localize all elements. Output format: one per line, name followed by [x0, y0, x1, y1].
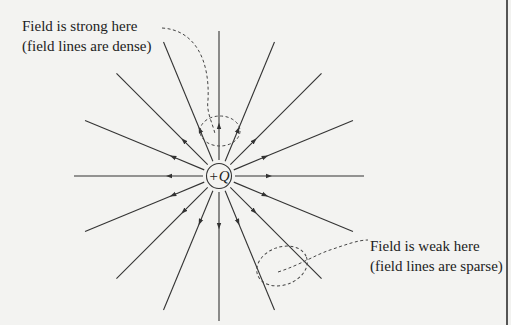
- field-line: [265, 195, 353, 231]
- field-line: [265, 121, 353, 157]
- field-line: [184, 141, 208, 165]
- field-line: [238, 42, 274, 130]
- field-line: [254, 73, 321, 140]
- field-line: [116, 211, 183, 278]
- field-line: [164, 42, 200, 130]
- field-line: [225, 191, 238, 222]
- weak-annotation-line2: (field lines are sparse): [370, 256, 503, 276]
- field-line: [184, 187, 208, 211]
- field-line: [173, 157, 204, 170]
- weak-field-annotation: Field is weak here (field lines are spar…: [370, 236, 503, 276]
- field-line: [200, 191, 213, 222]
- field-line: [238, 222, 274, 310]
- field-line: [230, 141, 254, 165]
- strong-leader-line: [162, 28, 215, 134]
- field-line: [116, 73, 183, 140]
- field-line: [164, 222, 200, 310]
- weak-region-marker: [251, 239, 313, 292]
- field-line: [200, 130, 213, 161]
- strong-region-marker: [200, 116, 240, 146]
- field-line: [230, 187, 254, 211]
- strong-annotation-line1: Field is strong here: [22, 16, 152, 36]
- strong-annotation-line2: (field lines are dense): [22, 36, 152, 56]
- weak-leader-line: [278, 240, 368, 272]
- field-line: [225, 130, 238, 161]
- field-line: [234, 157, 265, 170]
- field-line: [85, 121, 173, 157]
- field-line: [254, 211, 321, 278]
- weak-annotation-line1: Field is weak here: [370, 236, 503, 256]
- strong-field-annotation: Field is strong here (field lines are de…: [22, 16, 152, 56]
- charge-label: +Q: [209, 168, 230, 184]
- field-line: [234, 182, 265, 195]
- field-line: [173, 182, 204, 195]
- field-line: [85, 195, 173, 231]
